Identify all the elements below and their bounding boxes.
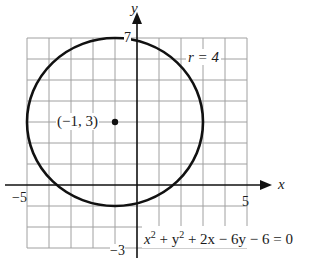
y-axis-label: y bbox=[131, 0, 138, 17]
tick-label-x-5: 5 bbox=[242, 194, 249, 210]
plot-area bbox=[0, 0, 333, 260]
axes bbox=[5, 20, 262, 258]
center-point bbox=[112, 119, 118, 125]
radius-label: r = 4 bbox=[186, 49, 221, 65]
tick-label-x-neg5: −5 bbox=[12, 190, 27, 206]
radius-text: r = 4 bbox=[188, 49, 219, 65]
equation-label: x2 + y2 + 2x − 6y − 6 = 0 bbox=[142, 226, 295, 248]
eq-plus-y: + y bbox=[156, 231, 179, 247]
tick-label-y-neg3: −3 bbox=[110, 244, 125, 258]
x-axis-label: x bbox=[278, 176, 285, 193]
tick-label-y-7: 7 bbox=[124, 31, 131, 45]
x-axis-arrow-icon bbox=[260, 180, 272, 190]
eq-x: x bbox=[144, 231, 151, 247]
center-point-label: (−1, 3) bbox=[56, 113, 99, 130]
eq-rest: + 2x − 6y − 6 = 0 bbox=[184, 231, 293, 247]
